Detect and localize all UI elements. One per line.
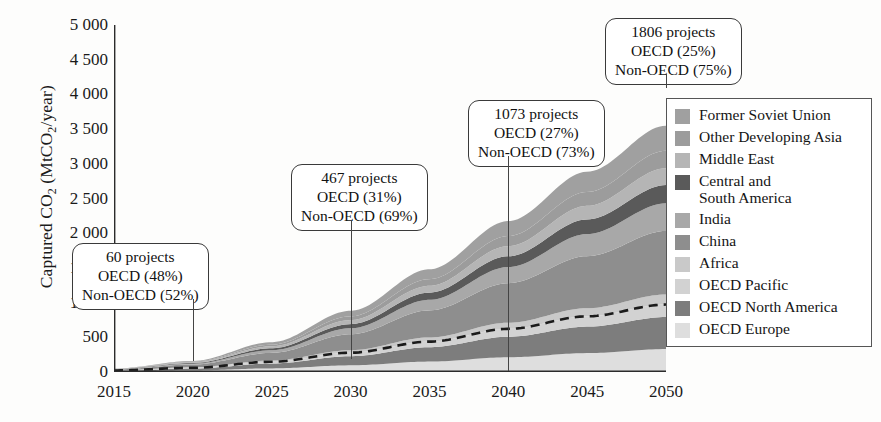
callout-2030: 467 projects OECD (31%) Non-OECD (69%) — [291, 164, 428, 231]
y-tick-label: 5 000 — [28, 15, 108, 35]
legend-item[interactable]: OECD Europe — [675, 320, 865, 339]
callout-2030-non-oecd: Non-OECD (69%) — [301, 206, 418, 225]
x-tick-label: 2015 — [97, 382, 131, 402]
legend-item[interactable]: OECD North America — [675, 298, 865, 317]
legend-item-label: India — [699, 210, 731, 227]
y-tick-label: 3 500 — [28, 119, 108, 139]
x-tick-label: 2050 — [649, 382, 683, 402]
x-tick-label: 2025 — [255, 382, 289, 402]
legend-item-label: Central and South America — [699, 172, 792, 207]
x-tick-label: 2030 — [334, 382, 368, 402]
legend-item-label: OECD Pacific — [699, 276, 788, 293]
y-tick-label: 3 000 — [28, 154, 108, 174]
legend-item[interactable]: China — [675, 232, 865, 251]
legend-item-label: Africa — [699, 254, 739, 271]
legend-swatch-icon — [675, 131, 690, 146]
callout-2030-projects: 467 projects — [301, 168, 418, 187]
legend-item-label: OECD Europe — [699, 320, 790, 337]
legend-swatch-icon — [675, 257, 690, 272]
legend-swatch-icon — [675, 153, 690, 168]
x-axis-tick-labels: 20152020202520302035204020452050 — [0, 382, 881, 412]
legend-item-label: Other Developing Asia — [699, 128, 842, 145]
legend-item-label: OECD North America — [699, 298, 838, 315]
legend-item[interactable]: OECD Pacific — [675, 276, 865, 295]
y-tick-label: 2 000 — [28, 223, 108, 243]
legend-item-label: Former Soviet Union — [699, 106, 831, 123]
legend-item[interactable]: Central and South America — [675, 172, 865, 207]
y-tick-label: 4 500 — [28, 50, 108, 70]
legend-item-label: China — [699, 232, 736, 249]
callout-2040-non-oecd: Non-OECD (73%) — [478, 142, 595, 161]
leader-line-2040 — [508, 156, 509, 371]
callout-2030-oecd: OECD (31%) — [301, 187, 418, 206]
legend-swatch-icon — [675, 301, 690, 316]
legend-swatch-icon — [675, 213, 690, 228]
legend-swatch-icon — [675, 279, 690, 294]
legend-swatch-icon — [675, 175, 690, 190]
callout-2020-projects: 60 projects — [82, 247, 199, 266]
callout-2020: 60 projects OECD (48%) Non-OECD (52%) — [72, 243, 209, 310]
leader-line-2020 — [193, 299, 194, 361]
y-axis-tick-labels: 05001 0001 5002 0002 5003 0003 5004 0004… — [28, 0, 108, 422]
callout-2040-projects: 1073 projects — [478, 104, 595, 123]
x-tick-label: 2040 — [491, 382, 525, 402]
legend: Former Soviet UnionOther Developing Asia… — [666, 98, 872, 347]
legend-item[interactable]: Middle East — [675, 150, 865, 169]
callout-2040-oecd: OECD (27%) — [478, 123, 595, 142]
legend-item[interactable]: Other Developing Asia — [675, 128, 865, 147]
y-tick-label: 0 — [28, 362, 108, 382]
chart-figure: Captured CO2 (MtCO2/year) 05001 0001 500… — [0, 0, 881, 422]
callout-2020-oecd: OECD (48%) — [82, 266, 199, 285]
callout-2020-non-oecd: Non-OECD (52%) — [82, 285, 199, 304]
callout-2050-non-oecd: Non-OECD (75%) — [615, 60, 732, 79]
x-tick-label: 2035 — [412, 382, 446, 402]
x-tick-label: 2020 — [176, 382, 210, 402]
legend-swatch-icon — [675, 323, 690, 338]
legend-swatch-icon — [675, 109, 690, 124]
legend-item[interactable]: Africa — [675, 254, 865, 273]
callout-2050-oecd: OECD (25%) — [615, 41, 732, 60]
y-tick-label: 4 000 — [28, 84, 108, 104]
x-tick-label: 2045 — [570, 382, 604, 402]
callout-2040: 1073 projects OECD (27%) Non-OECD (73%) — [468, 100, 605, 167]
callout-2050-projects: 1806 projects — [615, 22, 732, 41]
legend-item-label: Middle East — [699, 150, 774, 167]
legend-swatch-icon — [675, 235, 690, 250]
legend-item[interactable]: India — [675, 210, 865, 229]
y-tick-label: 500 — [28, 327, 108, 347]
callout-2050: 1806 projects OECD (25%) Non-OECD (75%) — [605, 18, 742, 85]
leader-line-2030 — [351, 220, 352, 359]
leader-line-2050 — [666, 74, 667, 88]
y-tick-label: 2 500 — [28, 189, 108, 209]
legend-item[interactable]: Former Soviet Union — [675, 106, 865, 125]
